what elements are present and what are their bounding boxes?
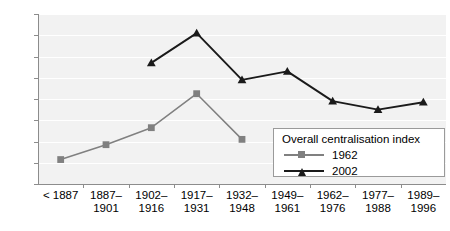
triangle-marker-icon	[192, 29, 201, 37]
square-marker-icon	[103, 141, 110, 148]
series-1962	[57, 90, 245, 163]
square-marker-icon	[239, 136, 246, 143]
triangle-marker-icon	[283, 67, 292, 75]
chart-legend: Overall centralisation index 1962 2002	[273, 128, 445, 177]
legend-label-2002: 2002	[332, 165, 358, 177]
series-2002	[147, 29, 428, 113]
legend-entry-1962[interactable]: 1962	[282, 147, 444, 162]
triangle-marker-icon	[419, 98, 428, 106]
legend-title: Overall centralisation index	[282, 133, 444, 146]
triangle-marker-icon	[147, 58, 156, 66]
triangle-marker-icon	[298, 168, 306, 176]
square-marker-icon	[148, 124, 155, 131]
legend-swatch-1962	[282, 149, 326, 161]
line-chart: 00.20.40.60.811.21.41.6 < 18871887–19011…	[0, 0, 450, 231]
legend-label-1962: 1962	[332, 149, 358, 161]
legend-entry-2002[interactable]: 2002	[282, 163, 444, 178]
square-marker-icon	[193, 90, 200, 97]
legend-swatch-2002	[282, 165, 326, 177]
square-marker-icon	[298, 151, 305, 158]
square-marker-icon	[57, 156, 64, 163]
triangle-marker-icon	[328, 97, 337, 105]
data-series-layer	[0, 0, 450, 231]
